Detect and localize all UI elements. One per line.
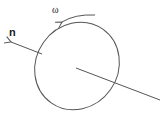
- normal-vector-arrow: [11, 42, 42, 54]
- disk-ellipse: [18, 6, 137, 120]
- normal-label: n: [9, 26, 16, 38]
- diagram-canvas: [0, 0, 168, 120]
- omega-label: ω: [52, 4, 59, 15]
- angular-velocity-arrow: [62, 15, 95, 22]
